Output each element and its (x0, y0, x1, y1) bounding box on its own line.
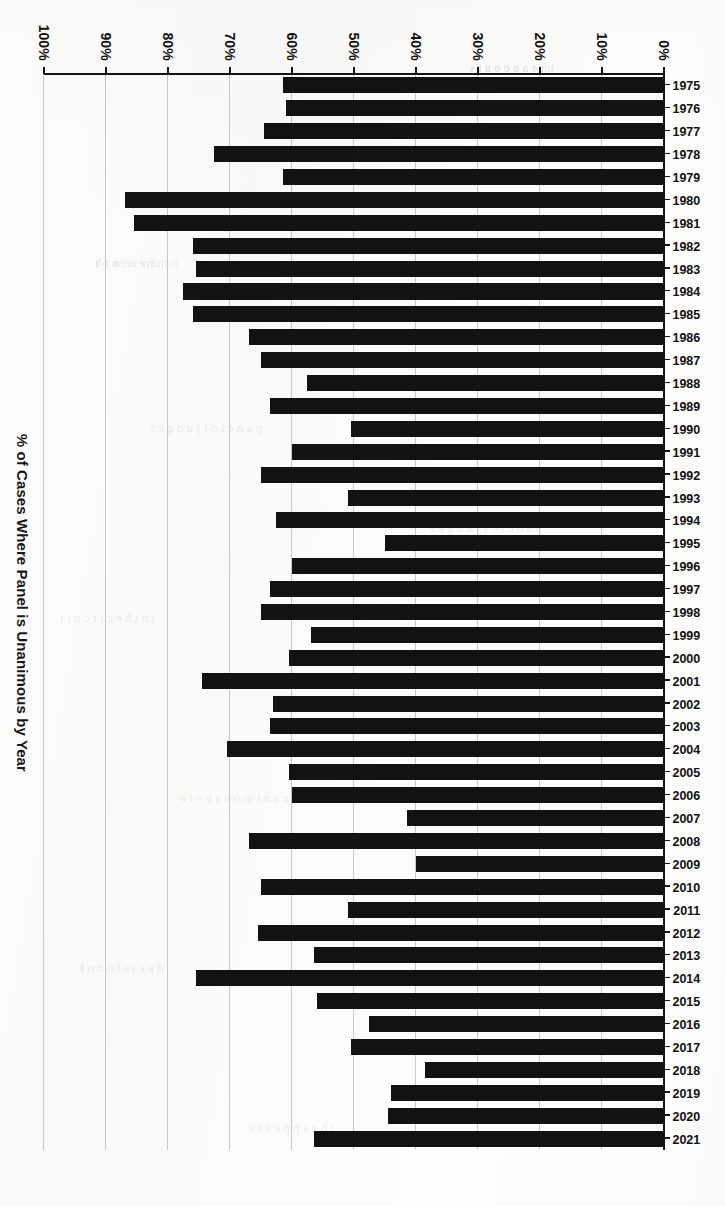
category-tick-2000 (664, 657, 670, 658)
bar-1980 (125, 192, 664, 208)
bar-1998 (261, 604, 664, 620)
bar-row (44, 764, 664, 780)
category-label-1999: 1999 (673, 629, 700, 642)
category-tick-1977 (664, 130, 670, 131)
category-tick-1992 (664, 473, 670, 474)
bar-1989 (270, 398, 664, 414)
bar-row (44, 375, 664, 391)
bar-2018 (425, 1062, 664, 1078)
category-label-1985: 1985 (673, 309, 700, 322)
bar-row (44, 741, 664, 757)
bar-row (44, 581, 664, 597)
category-label-2010: 2010 (673, 881, 700, 894)
category-label-2021: 2021 (673, 1133, 700, 1146)
category-tick-1999 (664, 634, 670, 635)
chart-axis-title-text: % of Cases Where Panel is Unanimous by Y… (15, 434, 32, 772)
bar-1993 (348, 490, 664, 506)
category-tick-1991 (664, 450, 670, 451)
category-label-2006: 2006 (673, 790, 700, 803)
value-axis-label: 10% (594, 32, 610, 61)
bar-row (44, 558, 664, 574)
category-label-1993: 1993 (673, 492, 700, 505)
category-tick-1994 (664, 519, 670, 520)
bar-row (44, 329, 664, 345)
bar-row (44, 650, 664, 666)
category-tick-1998 (664, 611, 670, 612)
bar-2012 (258, 925, 664, 941)
chart-page: % of Cases Where Panel is Unanimous by Y… (0, 0, 725, 1206)
category-tick-1983 (664, 267, 670, 268)
category-tick-2005 (664, 771, 670, 772)
value-tick-80% (167, 67, 168, 74)
bar-row (44, 215, 664, 231)
bar-row (44, 879, 664, 895)
bar-1997 (270, 581, 664, 597)
value-axis-label: 50% (346, 32, 362, 61)
bar-row (44, 77, 664, 93)
bar-row (44, 123, 664, 139)
category-axis-line (663, 74, 665, 1150)
bar-row (44, 902, 664, 918)
bar-2003 (270, 718, 664, 734)
bar-row (44, 421, 664, 437)
category-label-1996: 1996 (673, 561, 700, 574)
category-label-2007: 2007 (673, 813, 700, 826)
category-tick-2016 (664, 1023, 670, 1024)
value-axis-label: 20% (532, 32, 548, 61)
category-label-1994: 1994 (673, 515, 700, 528)
bar-row (44, 970, 664, 986)
bar-row (44, 604, 664, 620)
category-label-2008: 2008 (673, 835, 700, 848)
category-tick-2006 (664, 794, 670, 795)
category-tick-2015 (664, 1000, 670, 1001)
bar-1979 (283, 169, 664, 185)
value-axis-label: 90% (98, 32, 114, 61)
bar-row (44, 1062, 664, 1078)
category-tick-2012 (664, 931, 670, 932)
category-label-2005: 2005 (673, 767, 700, 780)
category-label-1990: 1990 (673, 423, 700, 436)
bar-2019 (391, 1085, 664, 1101)
category-tick-1989 (664, 405, 670, 406)
bar-row (44, 444, 664, 460)
bar-1988 (308, 375, 665, 391)
bar-1984 (184, 284, 665, 300)
bar-1990 (351, 421, 664, 437)
bar-1991 (292, 444, 664, 460)
bar-2001 (202, 673, 664, 689)
bar-row (44, 535, 664, 551)
bar-row (44, 512, 664, 528)
category-label-2009: 2009 (673, 858, 700, 871)
bar-1999 (311, 627, 664, 643)
category-tick-1975 (664, 84, 670, 85)
bar-row (44, 352, 664, 368)
value-tick-100% (43, 67, 44, 74)
bar-2017 (351, 1039, 664, 1055)
category-label-1986: 1986 (673, 332, 700, 345)
bar-row (44, 169, 664, 185)
bar-row (44, 627, 664, 643)
category-tick-1987 (664, 359, 670, 360)
bar-row (44, 833, 664, 849)
category-tick-1995 (664, 542, 670, 543)
bar-2016 (370, 1016, 665, 1032)
category-label-1989: 1989 (673, 400, 700, 413)
category-tick-1978 (664, 153, 670, 154)
bar-2014 (196, 970, 664, 986)
bar-row (44, 1085, 664, 1101)
bar-row (44, 146, 664, 162)
bar-2020 (388, 1108, 664, 1124)
bar-1996 (292, 558, 664, 574)
bar-1992 (261, 467, 664, 483)
category-label-1983: 1983 (673, 263, 700, 276)
bar-1978 (215, 146, 665, 162)
category-label-1976: 1976 (673, 103, 700, 116)
category-label-1987: 1987 (673, 355, 700, 368)
category-tick-1981 (664, 222, 670, 223)
category-label-2015: 2015 (673, 996, 700, 1009)
bar-2005 (289, 764, 664, 780)
bar-1976 (286, 100, 664, 116)
value-tick-90% (105, 67, 106, 74)
value-tick-50% (353, 67, 354, 74)
category-label-1981: 1981 (673, 217, 700, 230)
